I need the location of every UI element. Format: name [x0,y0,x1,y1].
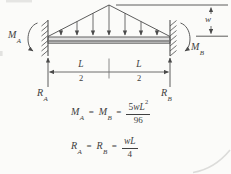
span-right-denominator: 2 [132,74,146,83]
reaction-eq-term1-base: R [71,140,77,151]
moment-equation: MA = MB = 5wL2 96 [71,101,150,125]
moment-arc-left [28,23,37,51]
moment-right-base: M [191,41,199,52]
moment-left-label: MA [8,30,21,43]
moment-frac-variables: wL [133,102,145,112]
reaction-left-label: RA [37,88,47,101]
reaction-fraction-denominator: 4 [128,149,133,159]
moment-right-sub: B [200,49,204,57]
moment-fraction-denominator: 96 [134,115,143,125]
span-right-numerator: L [132,60,146,70]
moment-eq-term1-base: M [71,106,79,117]
equals-sign: = [86,142,91,151]
moment-left-sub: A [17,37,21,45]
reaction-left-base: R [37,87,43,98]
moment-right-label: MB [191,42,204,55]
span-left-denominator: 2 [74,74,88,83]
load-intensity-label: w [203,15,213,24]
fixed-support-left [42,20,49,56]
distributed-load-arrows [61,5,157,35]
moment-eq-term2-sub: B [108,114,112,122]
span-left-numerator: L [74,60,88,70]
moment-eq-term1-sub: A [80,114,84,122]
reaction-eq-term2-sub: B [103,148,107,156]
moment-fraction-numerator: 5wL2 [126,101,150,115]
moment-arc-right [181,23,190,51]
equals-sign: = [112,142,117,151]
equals-sign: = [89,108,94,117]
moment-frac-exponent: 2 [145,98,148,105]
beam-diagram-figure: MA MB RA RB w L 2 L 2 MA = MB = 5wL2 96 … [0,0,231,174]
reaction-eq-term1-sub: A [78,148,82,156]
fixed-support-right [170,20,177,56]
reaction-fraction: wL 4 [122,135,138,159]
beam [48,37,170,43]
reaction-equation: RA = RB = wL 4 [71,135,138,159]
moment-eq-term2-base: M [99,106,107,117]
reaction-right-sub: B [168,95,172,103]
moment-eq-term2: MB [99,107,112,120]
reaction-right-base: R [161,87,167,98]
moment-fraction: 5wL2 96 [126,101,150,125]
moment-left-base: M [8,29,16,40]
reaction-left-sub: A [44,95,48,103]
equals-sign: = [116,108,121,117]
reaction-frac-variables: wL [124,136,136,146]
reaction-eq-term2: RB [96,141,106,154]
moment-eq-term1: MA [71,107,84,120]
reaction-right-label: RB [161,88,171,101]
reaction-eq-term1: RA [71,141,81,154]
reaction-eq-term2-base: R [96,140,102,151]
reaction-fraction-numerator: wL [122,135,138,149]
span-dimension-line [50,59,169,79]
